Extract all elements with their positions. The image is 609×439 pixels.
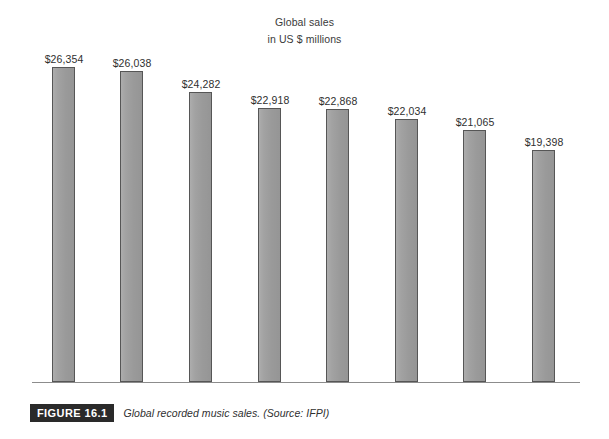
- bar-value-2001: $26,038: [97, 57, 167, 69]
- bar-2007[interactable]: [532, 150, 555, 382]
- figure-container: Global sales in US $ millions $26,354 20…: [0, 0, 609, 439]
- x-axis-line: [32, 382, 580, 383]
- chart-title: Global sales in US $ millions: [0, 14, 609, 48]
- bar-value-2000: $26,354: [29, 53, 99, 65]
- figure-caption: FIGURE 16.1 Global recorded music sales.…: [30, 404, 329, 422]
- figure-number-badge: FIGURE 16.1: [30, 404, 114, 422]
- bar-2005[interactable]: [395, 119, 418, 382]
- bar-value-2004: $22,868: [303, 95, 373, 107]
- bar-2001[interactable]: [120, 71, 143, 382]
- chart-title-line-2: in US $ millions: [0, 31, 609, 48]
- figure-caption-text: Global recorded music sales. (Source: IF…: [123, 407, 329, 419]
- bar-value-2006: $21,065: [440, 116, 510, 128]
- bar-value-2005: $22,034: [372, 105, 442, 117]
- bar-2006[interactable]: [463, 130, 486, 382]
- plot-area: $26,354 2000 $26,038 2001 $24,282 2002 $…: [32, 56, 580, 383]
- bar-value-2002: $24,282: [166, 78, 236, 90]
- bar-value-2003: $22,918: [235, 94, 305, 106]
- bar-2002[interactable]: [189, 92, 212, 382]
- bar-2004[interactable]: [326, 109, 349, 382]
- bar-2000[interactable]: [52, 67, 75, 382]
- bar-value-2007: $19,398: [509, 136, 579, 148]
- chart-title-line-1: Global sales: [0, 14, 609, 31]
- bar-2003[interactable]: [258, 108, 281, 382]
